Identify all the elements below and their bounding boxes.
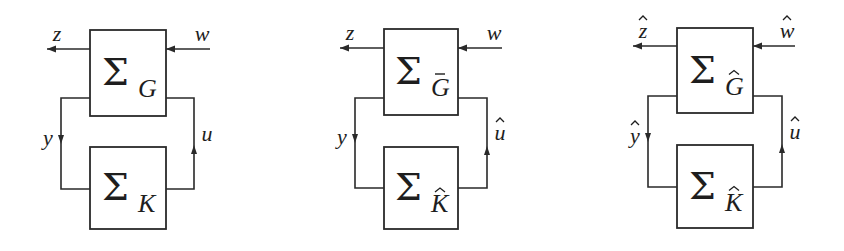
plant-block-subscript: G [138,74,157,103]
block-diagram-figure: ΣGΣKzwyu ΣGΣKzwyu ΣGΣKzwyu [0,0,844,251]
controller-block-sigma-symbol: Σ [102,165,129,209]
input-signal-label: w [780,18,795,43]
controller-block-subscript: K [430,189,450,218]
controller-block-subscript: K [137,189,157,218]
control-signal-label: u [202,121,213,146]
measurement-arrow-icon [58,135,64,144]
controller-block-sigma-symbol: Σ [395,165,422,209]
measurement-signal-label: y [628,123,640,148]
controller-block-sigma-symbol: Σ [689,164,716,208]
input-arrow-icon [753,43,762,50]
input-arrow-icon [166,46,175,53]
plant-block-subscript: G [431,73,450,102]
diagram-3: ΣGΣKzwyu [628,16,800,228]
control-wire [753,96,782,187]
output-signal-label: z [52,21,62,46]
measurement-signal-label: y [335,124,347,149]
measurement-arrow-icon [645,133,651,142]
measurement-wire [355,98,384,188]
plant-block-sigma-symbol: Σ [689,48,716,92]
output-arrow-icon [47,46,56,53]
control-signal-label: u [790,119,801,144]
measurement-wire [61,98,90,189]
plant-block-sigma-symbol: Σ [395,49,422,93]
control-arrow-icon [484,146,490,155]
measurement-arrow-icon [352,134,358,143]
output-signal-label: z [345,20,355,45]
plant-block-subscript: G [725,72,744,101]
diagram-1: ΣGΣKzwyu [41,21,212,229]
input-signal-label: w [487,20,502,45]
measurement-wire [648,96,677,187]
controller-block-subscript: K [724,188,744,217]
control-signal-label: u [495,120,506,145]
control-wire [166,98,194,189]
diagram-2: ΣGΣKzwyu [335,20,505,229]
control-wire [458,98,487,188]
control-arrow-icon [191,145,197,154]
plant-block-sigma-symbol: Σ [102,50,129,94]
input-signal-label: w [195,21,210,46]
input-arrow-icon [458,45,467,52]
control-arrow-icon [779,144,785,153]
measurement-signal-label: y [41,125,53,150]
output-arrow-icon [340,45,349,52]
output-signal-label: z [638,18,648,43]
output-arrow-icon [633,43,642,50]
